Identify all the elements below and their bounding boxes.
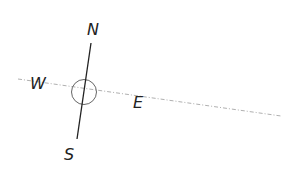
west-label: W [30,76,46,92]
north-south-needle [77,43,91,139]
compass-diagram: N W E S [0,0,282,180]
north-label: N [87,22,99,38]
south-label: S [64,147,74,163]
east-west-axis [18,79,281,116]
east-label: E [133,95,143,111]
